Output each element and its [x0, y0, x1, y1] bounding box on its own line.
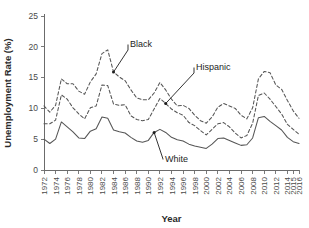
y-tick-label: 25: [29, 11, 39, 21]
annotation-leader-black: [114, 45, 129, 73]
x-tick-label: 1990: [144, 176, 153, 194]
x-tick-label: 2010: [260, 176, 269, 194]
x-tick-label: 1994: [168, 176, 177, 194]
y-tick-label: 20: [29, 42, 39, 52]
x-tick-label: 1980: [86, 176, 95, 194]
series-line-white: [44, 116, 299, 148]
annotation-leader-hispanic: [166, 68, 194, 104]
series-line-black: [44, 50, 299, 123]
annotation-point-white: [153, 131, 156, 134]
unemployment-line-chart: 0510152025197219741976197819801982198419…: [0, 0, 309, 228]
annotation-label-black: Black: [130, 39, 153, 49]
x-tick-label: 1986: [121, 176, 130, 194]
y-tick-label: 15: [29, 72, 39, 82]
x-tick-label: 1992: [156, 176, 165, 194]
x-tick-label: 2000: [202, 176, 211, 194]
y-tick-label: 5: [33, 134, 38, 144]
x-tick-label: 1974: [52, 176, 61, 194]
x-tick-label: 2012: [272, 176, 281, 194]
x-tick-label: 1972: [40, 176, 49, 194]
x-tick-label: 1998: [191, 176, 200, 194]
y-tick-label: 10: [29, 103, 39, 113]
series-line-hispanic: [44, 85, 299, 138]
x-tick-label: 1984: [110, 176, 119, 194]
x-axis-title: Year: [161, 213, 181, 224]
annotation-point-black: [112, 71, 115, 74]
x-tick-label: 2002: [214, 176, 223, 194]
x-tick-label: 1988: [133, 176, 142, 194]
annotation-leader-white: [154, 132, 163, 159]
y-axis-title: Unemployment Rate (%): [2, 38, 13, 147]
annotation-label-white: White: [165, 154, 188, 164]
chart-page: 0510152025197219741976197819801982198419…: [0, 0, 309, 228]
x-tick-label: 2008: [249, 176, 258, 194]
x-tick-label: 1976: [63, 176, 72, 194]
annotation-label-hispanic: Hispanic: [196, 62, 231, 72]
x-tick-label: 2016: [295, 176, 304, 194]
x-tick-label: 1982: [98, 176, 107, 194]
x-tick-label: 1978: [75, 176, 84, 194]
annotation-point-hispanic: [164, 102, 167, 105]
x-tick-label: 2004: [225, 176, 234, 194]
x-tick-label: 1996: [179, 176, 188, 194]
x-tick-label: 2006: [237, 176, 246, 194]
y-tick-label: 0: [33, 165, 38, 175]
